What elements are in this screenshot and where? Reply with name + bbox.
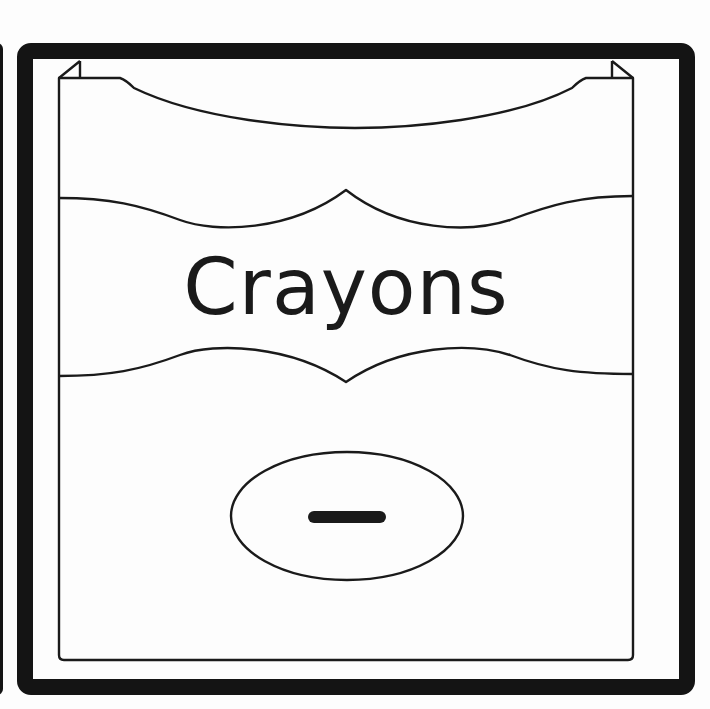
- neighbor-card-edge: [0, 43, 3, 695]
- crayon-card: Crayons: [0, 0, 710, 709]
- dash-icon: [308, 511, 386, 523]
- outer-frame: [25, 51, 687, 687]
- box-title: Crayons: [183, 242, 508, 332]
- crayon-box-icon: [59, 61, 633, 660]
